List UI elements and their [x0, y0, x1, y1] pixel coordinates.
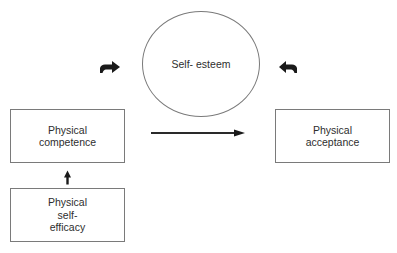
arrow-left-bent-icon [279, 61, 297, 73]
physical-competence-label: Physical competence [39, 124, 96, 149]
arrow-right-bent-icon [100, 61, 120, 73]
physical-acceptance-label-line-1: Physical [306, 124, 360, 137]
physical-acceptance-label: Physical acceptance [306, 124, 360, 149]
physical-self-efficacy-label-line-2: self- [48, 209, 87, 222]
self-esteem-label: Self- esteem [172, 58, 231, 71]
physical-self-efficacy-node: Physical self- efficacy [10, 188, 125, 242]
physical-competence-label-line-2: competence [39, 136, 96, 149]
physical-competence-node: Physical competence [10, 109, 125, 163]
self-esteem-label-line-1: Self- [172, 58, 194, 70]
physical-acceptance-label-line-2: acceptance [306, 136, 360, 149]
physical-self-efficacy-label: Physical self- efficacy [48, 196, 87, 234]
arrow-long-right-icon [151, 130, 245, 137]
physical-competence-label-line-1: Physical [39, 124, 96, 137]
physical-acceptance-node: Physical acceptance [275, 109, 390, 163]
self-esteem-node: Self- esteem [142, 11, 260, 117]
self-esteem-label-line-2: esteem [196, 58, 230, 70]
physical-self-efficacy-label-line-3: efficacy [48, 221, 87, 234]
physical-self-efficacy-label-line-1: Physical [48, 196, 87, 209]
arrow-up-icon [64, 171, 71, 185]
